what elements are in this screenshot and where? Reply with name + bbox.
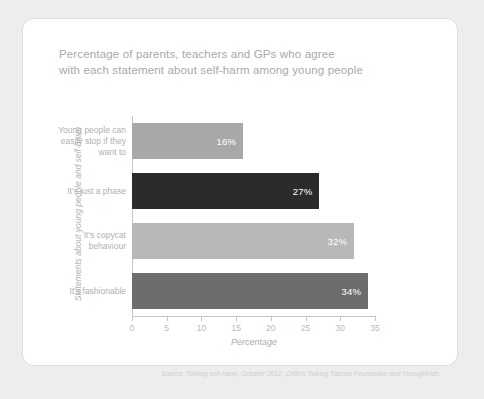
bar-row: 34% <box>132 266 375 316</box>
x-axis-tick-label: 35 <box>370 323 379 333</box>
bar-row: 16% <box>132 116 375 166</box>
bar-value-label: 32% <box>328 236 348 247</box>
x-axis-tick-label: 5 <box>164 323 169 333</box>
x-axis-tick <box>375 316 376 321</box>
bar-value-label: 34% <box>341 286 361 297</box>
bar[interactable]: 34% <box>132 273 368 309</box>
bar-value-label: 16% <box>216 136 236 147</box>
bar[interactable]: 27% <box>132 173 319 209</box>
x-axis-tick <box>271 316 272 321</box>
x-axis-tick-label: 0 <box>130 323 135 333</box>
category-label-text: Young people can easily stop if they wan… <box>26 125 126 158</box>
bar[interactable]: 16% <box>132 123 243 159</box>
bar-row: 27% <box>132 166 375 216</box>
y-axis-tick-label: It's fashionable <box>23 266 126 316</box>
bar[interactable]: 32% <box>132 223 354 259</box>
x-axis-tick-label: 25 <box>301 323 310 333</box>
y-axis-tick-label: It's copycat behaviour <box>23 216 126 266</box>
x-axis-tick <box>340 316 341 321</box>
chart-card: Percentage of parents, teachers and GPs … <box>22 18 458 366</box>
x-axis-title: Percentage <box>132 337 376 347</box>
x-axis-tick-label: 10 <box>197 323 206 333</box>
bar-row: 32% <box>132 216 375 266</box>
x-axis-tick-label: 30 <box>336 323 345 333</box>
source-note: Source: Talking self-harm, October 2012,… <box>59 370 439 377</box>
chart-title: Percentage of parents, teachers and GPs … <box>59 46 429 78</box>
x-axis-tick <box>236 316 237 321</box>
x-axis-tick <box>132 316 133 321</box>
plot-area: 16%27%32%34% <box>132 116 375 316</box>
x-axis-tick <box>306 316 307 321</box>
x-axis-tick-label: 15 <box>231 323 240 333</box>
x-axis-tick <box>201 316 202 321</box>
x-axis-tick <box>167 316 168 321</box>
y-axis-tick-label: It's just a phase <box>23 166 126 216</box>
x-axis-tick-label: 20 <box>266 323 275 333</box>
category-label-text: It's copycat behaviour <box>26 230 126 252</box>
category-label-text: It's fashionable <box>26 286 126 297</box>
category-label-text: It's just a phase <box>26 186 126 197</box>
bar-value-label: 27% <box>293 186 313 197</box>
y-axis-tick-label: Young people can easily stop if they wan… <box>23 116 126 166</box>
y-axis-category-labels: Young people can easily stop if they wan… <box>23 116 126 316</box>
